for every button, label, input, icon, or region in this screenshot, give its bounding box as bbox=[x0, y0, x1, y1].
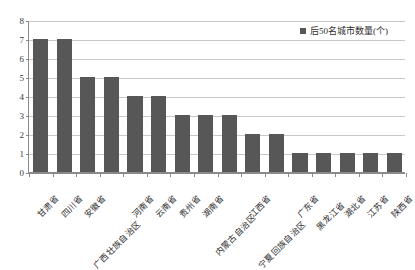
y-axis-tick-label: 0 bbox=[6, 169, 24, 178]
y-axis-tick-label: 8 bbox=[6, 17, 24, 26]
bar[interactable] bbox=[33, 39, 48, 172]
square-marker-icon bbox=[300, 28, 306, 34]
bar-slot bbox=[76, 21, 100, 172]
y-axis-tick-label: 7 bbox=[6, 36, 24, 45]
bar-slot bbox=[288, 21, 312, 172]
x-axis-tick-label: 黑龙江省 bbox=[315, 200, 346, 231]
x-axis-tick-label: 四川省 bbox=[60, 194, 85, 219]
y-axis-tick-label: 6 bbox=[6, 55, 24, 64]
bar-slot bbox=[382, 21, 406, 172]
bars-group bbox=[29, 21, 405, 172]
x-axis-tick-label: 甘肃省 bbox=[36, 194, 61, 219]
bar[interactable] bbox=[175, 115, 190, 172]
x-axis-tick-label: 广西壮族自治区 bbox=[92, 220, 143, 270]
bar-slot bbox=[100, 21, 124, 172]
bar[interactable] bbox=[387, 153, 402, 172]
x-axis-tick-label: 宁夏回族自治区 bbox=[257, 220, 308, 270]
bar[interactable] bbox=[363, 153, 378, 172]
x-axis-tick-label: 江西省 bbox=[248, 194, 273, 219]
bar-slot bbox=[335, 21, 359, 172]
chart-legend: 后50名城市数量(个) bbox=[300, 24, 388, 37]
bar[interactable] bbox=[57, 39, 72, 172]
x-axis-tick-label: 内蒙古自治区 bbox=[213, 213, 257, 257]
bar[interactable] bbox=[269, 134, 284, 172]
bar[interactable] bbox=[222, 115, 237, 172]
legend-entry-label: 后50名城市数量(个) bbox=[310, 24, 388, 37]
bar-slot bbox=[265, 21, 289, 172]
bar[interactable] bbox=[151, 96, 166, 172]
bar[interactable] bbox=[245, 134, 260, 172]
x-axis-tick-label: 陕西省 bbox=[390, 194, 415, 219]
x-axis-tick-label: 河南省 bbox=[130, 194, 155, 219]
x-axis-tick-label: 贵州省 bbox=[178, 194, 203, 219]
bar-slot bbox=[241, 21, 265, 172]
bar-slot bbox=[170, 21, 194, 172]
bar-slot bbox=[218, 21, 242, 172]
bar-slot bbox=[123, 21, 147, 172]
x-axis-tick-mark bbox=[406, 173, 407, 177]
bar-slot bbox=[312, 21, 336, 172]
bar[interactable] bbox=[80, 77, 95, 172]
bar-slot bbox=[359, 21, 383, 172]
y-axis-tick-label: 2 bbox=[6, 131, 24, 140]
bar[interactable] bbox=[316, 153, 331, 172]
bar[interactable] bbox=[292, 153, 307, 172]
bar[interactable] bbox=[127, 96, 142, 172]
bar-slot bbox=[29, 21, 53, 172]
x-axis-tick-label: 广东省 bbox=[295, 194, 320, 219]
bar-slot bbox=[194, 21, 218, 172]
y-axis-tick-label: 1 bbox=[6, 150, 24, 159]
x-axis-tick-label: 云南省 bbox=[154, 194, 179, 219]
x-axis-tick-label: 安徽省 bbox=[83, 194, 108, 219]
bar[interactable] bbox=[340, 153, 355, 172]
y-axis-tick-label: 5 bbox=[6, 74, 24, 83]
bar[interactable] bbox=[198, 115, 213, 172]
bar[interactable] bbox=[104, 77, 119, 172]
plot-area bbox=[28, 21, 405, 173]
bar-slot bbox=[147, 21, 171, 172]
x-axis-tick-label: 湖北省 bbox=[342, 194, 367, 219]
bar-slot bbox=[53, 21, 77, 172]
x-axis-tick-label: 湖南省 bbox=[201, 194, 226, 219]
x-axis-labels-group: 甘肃省四川省安徽省广西壮族自治区河南省云南省贵州省湖南省内蒙古自治区江西省宁夏回… bbox=[28, 175, 405, 245]
x-axis-tick-label: 江苏省 bbox=[366, 194, 391, 219]
y-axis-tick-label: 4 bbox=[6, 93, 24, 102]
y-axis-tick-label: 3 bbox=[6, 112, 24, 121]
